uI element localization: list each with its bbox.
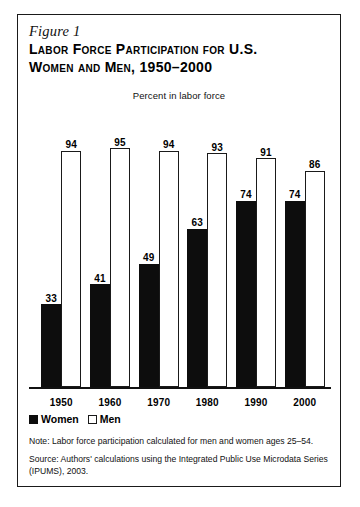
bar-group: 7491 xyxy=(236,135,276,387)
figure-label: Figure 1 xyxy=(29,23,329,40)
legend-swatch-men xyxy=(88,415,97,424)
bar-men: 93 xyxy=(207,153,227,387)
bar-group: 4994 xyxy=(139,135,179,387)
chart-subtitle: Percent in labor force xyxy=(29,90,329,101)
bar-group: 7486 xyxy=(285,135,325,387)
bar-group: 6393 xyxy=(187,135,227,387)
bar-value-label: 33 xyxy=(46,293,58,304)
figure-notes: Note: Labor force participation calculat… xyxy=(29,436,329,484)
x-axis-tick-labels: 195019601970198019902000 xyxy=(29,397,331,413)
figure-container: Figure 1 Labor Force Participation for U… xyxy=(17,14,341,487)
bar-men: 95 xyxy=(110,148,130,387)
bar-men: 91 xyxy=(256,158,276,387)
legend-item-men: Men xyxy=(88,413,121,425)
bar-value-label: 41 xyxy=(94,273,106,284)
note-text: Note: Labor force participation calculat… xyxy=(29,436,329,447)
plot-area: 339441954994639374917486 xyxy=(29,131,331,393)
source-text: Source: Authors' calculations using the … xyxy=(29,454,329,477)
bar-men: 86 xyxy=(305,171,325,388)
chart-title: Labor Force Participation for U.S. Women… xyxy=(29,41,329,77)
x-axis-line xyxy=(29,387,331,389)
bar-value-label: 86 xyxy=(309,159,321,170)
legend-label-women: Women xyxy=(41,413,79,425)
bar-women: 33 xyxy=(41,304,61,387)
bar-women: 49 xyxy=(139,264,159,387)
x-tick-label: 1970 xyxy=(133,397,185,408)
bar-value-label: 74 xyxy=(240,189,252,200)
chart-title-line-1: Labor Force Participation for U.S. xyxy=(29,41,329,59)
bar-men: 94 xyxy=(159,151,179,388)
bar-women: 74 xyxy=(285,201,305,387)
bar-men: 94 xyxy=(61,151,81,388)
bar-group: 3394 xyxy=(41,135,81,387)
bar-chart-plot: 339441954994639374917486 195019601970198… xyxy=(29,131,331,397)
bar-value-label: 91 xyxy=(260,147,272,158)
x-tick-label: 2000 xyxy=(279,397,331,408)
bar-value-label: 95 xyxy=(114,137,126,148)
x-tick-label: 1980 xyxy=(181,397,233,408)
x-tick-label: 1960 xyxy=(84,397,136,408)
bar-value-label: 93 xyxy=(212,142,224,153)
bar-women: 41 xyxy=(90,284,110,387)
bar-value-label: 94 xyxy=(66,139,78,150)
chart-title-line-2: Women and Men, 1950–2000 xyxy=(29,59,329,77)
legend-item-women: Women xyxy=(29,413,79,425)
chart-legend: Women Men xyxy=(29,413,121,425)
bar-women: 74 xyxy=(236,201,256,387)
bar-value-label: 49 xyxy=(143,252,155,263)
bar-value-label: 74 xyxy=(289,189,301,200)
x-tick-label: 1990 xyxy=(230,397,282,408)
bar-value-label: 94 xyxy=(163,139,175,150)
bar-value-label: 63 xyxy=(192,217,204,228)
bar-group: 4195 xyxy=(90,135,130,387)
legend-label-men: Men xyxy=(100,413,121,425)
legend-swatch-women xyxy=(29,415,38,424)
bar-women: 63 xyxy=(187,229,207,388)
x-tick-label: 1950 xyxy=(35,397,87,408)
